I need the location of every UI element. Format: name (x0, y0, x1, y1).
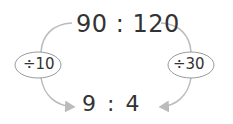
right-operation: ÷30 (173, 55, 205, 73)
top-ratio: 90 : 120 (76, 10, 180, 38)
left-arrow-top (41, 23, 72, 52)
right-arrow-bottom (160, 78, 191, 107)
bottom-ratio: 9 : 4 (82, 91, 141, 116)
left-arrow-bottom (41, 78, 74, 107)
left-operation: ÷10 (23, 55, 55, 73)
